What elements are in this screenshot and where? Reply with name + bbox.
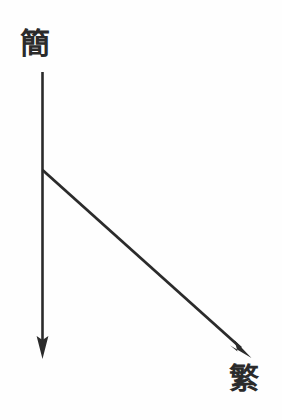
target-label-traditional: 繁 (229, 365, 259, 395)
source-label-simplified: 簡 (20, 30, 50, 60)
diagonal-arrow-shaft (43, 170, 242, 348)
diagram-canvas: 簡 繁 (0, 0, 282, 420)
arrow-diagram-svg (0, 0, 282, 420)
